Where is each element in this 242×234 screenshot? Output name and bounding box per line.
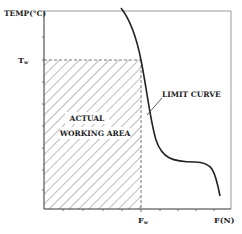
y-axis-label: TEMP(°C) (4, 9, 46, 18)
y-marker-label: Tw (18, 55, 29, 65)
limit-curve-diagram: TEMP(°C) Tw Fw F(N) LIMIT CURVE ACTUAL W… (0, 0, 242, 234)
x-axis-label: F(N) (214, 215, 235, 225)
area-label-line1: ACTUAL (69, 114, 105, 123)
area-label-line2: WORKING AREA (59, 129, 131, 138)
x-marker-label: Fw (138, 215, 149, 225)
curve-label: LIMIT CURVE (162, 90, 221, 99)
